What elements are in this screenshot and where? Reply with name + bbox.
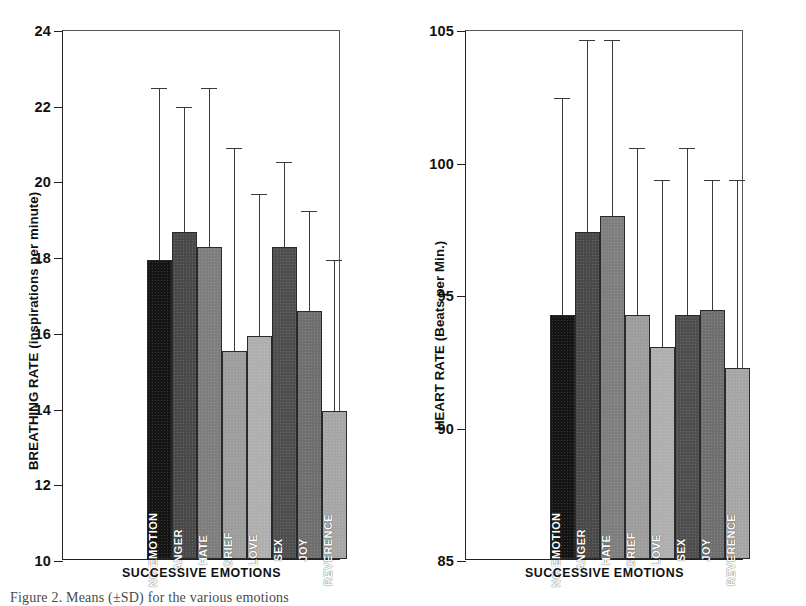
error-bar-line [234, 148, 235, 351]
error-bar-line [259, 194, 260, 336]
bar-rect[interactable]: JOY [297, 311, 322, 559]
error-bar-cap [729, 180, 745, 181]
bar-category-label: ANGER [172, 529, 184, 571]
y-axis-tick-label: 16 [34, 326, 51, 342]
bar-category-label: JOY [297, 538, 309, 561]
bar-item[interactable]: JOY [297, 29, 322, 559]
x-axis-title-heart: SUCCESSIVE EMOTIONS [403, 566, 806, 580]
bar-rect[interactable]: SEX [675, 315, 700, 559]
bar-rect[interactable]: JOY [700, 310, 725, 559]
bar-rect[interactable]: NO EMOTION [147, 260, 172, 559]
bar-item[interactable]: GRIEF [222, 29, 247, 559]
bar-rect[interactable]: ANGER [575, 232, 600, 559]
y-axis-tick-label: 22 [34, 99, 51, 115]
error-bar-line [662, 180, 663, 347]
error-bar-line [562, 98, 563, 315]
bar-group-heart: NO EMOTIONANGERHATEGRIEFLOVESEXJOYREVERE… [466, 31, 742, 559]
y-axis-tick [54, 258, 63, 259]
error-bar-line [284, 162, 285, 247]
error-bar-cap [604, 40, 620, 41]
bar-item[interactable]: NO EMOTION [147, 29, 172, 559]
y-axis-tick [54, 561, 63, 562]
error-bar-line [637, 148, 638, 315]
bar-rect[interactable]: LOVE [247, 336, 272, 559]
panel-breathing-rate: BREATHING RATE (inspirations per minute)… [0, 0, 403, 606]
error-bar-cap [579, 40, 595, 41]
error-bar-cap [276, 162, 292, 163]
error-bar-cap [176, 107, 192, 108]
bar-category-label: ANGER [575, 529, 587, 571]
bar-category-label: JOY [700, 538, 712, 561]
y-axis-tick [457, 429, 466, 430]
bar-item[interactable]: REVERENCE [322, 29, 347, 559]
y-axis-tick [54, 107, 63, 108]
bar-item[interactable]: GRIEF [625, 29, 650, 559]
y-axis-tick-label: 90 [437, 421, 454, 437]
error-bar-line [209, 88, 210, 247]
error-bar-cap [704, 180, 720, 181]
error-bar-cap [251, 194, 267, 195]
y-axis-tick [457, 31, 466, 32]
error-bar-line [184, 107, 185, 232]
bar-rect[interactable]: SEX [272, 247, 297, 559]
bar-category-label: LOVE [247, 534, 259, 566]
bar-rect[interactable]: REVERENCE [725, 368, 750, 559]
error-bar-cap [301, 211, 317, 212]
bar-item[interactable]: HATE [600, 29, 625, 559]
bar-rect[interactable]: NO EMOTION [550, 315, 575, 559]
error-bar-cap [326, 260, 342, 261]
bar-category-label: GRIEF [222, 532, 234, 568]
bar-rect[interactable]: HATE [197, 247, 222, 559]
bar-category-label: SEX [272, 538, 284, 561]
bar-item[interactable]: REVERENCE [725, 29, 750, 559]
bar-category-label: LOVE [650, 534, 662, 566]
figure-two-bar-charts: BREATHING RATE (inspirations per minute)… [0, 0, 806, 606]
bar-item[interactable]: SEX [675, 29, 700, 559]
bar-rect[interactable]: LOVE [650, 347, 675, 559]
y-axis-tick-label: 95 [437, 288, 454, 304]
bar-item[interactable]: SEX [272, 29, 297, 559]
x-axis-title-breathing: SUCCESSIVE EMOTIONS [0, 566, 403, 580]
bar-item[interactable]: JOY [700, 29, 725, 559]
y-axis-tick [457, 296, 466, 297]
bar-rect[interactable]: ANGER [172, 232, 197, 559]
figure-caption: Figure 2. Means (±SD) for the various em… [10, 590, 750, 606]
error-bar-cap [554, 98, 570, 99]
y-axis-tick-label: 12 [34, 477, 51, 493]
error-bar-line [334, 260, 335, 411]
error-bar-cap [201, 88, 217, 89]
bar-item[interactable]: HATE [197, 29, 222, 559]
y-axis-tick [54, 410, 63, 411]
bar-rect[interactable]: GRIEF [625, 315, 650, 559]
bar-category-label: HATE [600, 535, 612, 566]
bar-item[interactable]: ANGER [172, 29, 197, 559]
bar-item[interactable]: ANGER [575, 29, 600, 559]
bar-group-breathing: NO EMOTIONANGERHATEGRIEFLOVESEXJOYREVERE… [63, 31, 339, 559]
bar-category-label: GRIEF [625, 532, 637, 568]
y-axis-title-heart: HEART RATE (Beats per Min.) [432, 241, 447, 430]
y-axis-tick-label: 100 [429, 156, 454, 172]
bar-item[interactable]: NO EMOTION [550, 29, 575, 559]
plot-area-heart: NO EMOTIONANGERHATEGRIEFLOVESEXJOYREVERE… [465, 30, 743, 560]
bar-item[interactable]: LOVE [247, 29, 272, 559]
bar-category-label: HATE [197, 535, 209, 566]
y-axis-tick-label: 14 [34, 402, 51, 418]
error-bar-line [687, 148, 688, 315]
y-axis-tick-label: 105 [429, 23, 454, 39]
error-bar-line [309, 211, 310, 311]
y-axis-tick-label: 20 [34, 174, 51, 190]
bar-rect[interactable]: REVERENCE [322, 411, 347, 559]
y-axis-tick [54, 334, 63, 335]
error-bar-cap [226, 148, 242, 149]
bar-rect[interactable]: GRIEF [222, 351, 247, 559]
error-bar-cap [151, 88, 167, 89]
y-axis-tick-label: 24 [34, 23, 51, 39]
y-axis-tick [457, 164, 466, 165]
error-bar-cap [629, 148, 645, 149]
y-axis-tick [54, 485, 63, 486]
bar-item[interactable]: LOVE [650, 29, 675, 559]
plot-area-breathing: NO EMOTIONANGERHATEGRIEFLOVESEXJOYREVERE… [62, 30, 340, 560]
error-bar-cap [654, 180, 670, 181]
error-bar-line [612, 40, 613, 216]
bar-rect[interactable]: HATE [600, 216, 625, 559]
